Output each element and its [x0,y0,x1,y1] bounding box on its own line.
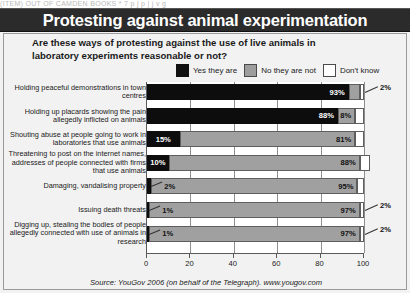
callout-leader-dont-know [365,204,378,211]
bar-row: 10%88% [147,155,370,171]
bar-row: 97% [147,226,364,242]
legend-swatch-yes [176,64,189,77]
bar-value-yes: 93% [330,88,348,97]
chart-subtitle: Are these ways of protesting against the… [32,37,362,62]
callout-leader-dont-know [365,228,378,235]
bar-segment-yes: 93% [147,84,349,100]
chart-panel: Are these ways of protesting against the… [3,33,407,290]
chart-title-bar: Protesting against animal experimentatio… [0,8,410,32]
bar-row: 95% [147,178,364,194]
bar-value-no: 88% [340,158,358,167]
x-tick-40 [233,254,234,258]
x-axis: 020406080100 [146,254,364,276]
bar-segment-no: 81% [180,131,356,147]
legend-swatch-dont_know [323,64,336,77]
legend-item-no: No they are not [244,64,316,77]
bar-segment-dont_know [355,108,364,124]
x-tick-100 [363,254,364,258]
bar-segment-dont_know [357,178,364,194]
bar-value-yes: 15% [148,135,179,144]
bar-segment-no: 88% [169,155,360,171]
x-tick-0 [146,254,147,258]
source-note: Source: YouGov 2006 (on behalf of the Te… [4,278,408,287]
chart-plot-wrapper: Holding peaceful demonstrations in town … [4,82,408,287]
bar-value-yes: 88% [319,111,337,120]
bar-segment-no: 95% [151,178,357,194]
legend-label-yes: Yes they are [193,66,237,75]
plot-area: 93%2%88%8%15%81%10%88%95%2%97%1%2%97%1%2… [146,82,364,254]
category-label: Issuing death threats [6,206,146,214]
bar-value-dont-know: 2% [380,201,391,210]
category-label: Holding up placards showing the pain all… [6,108,146,124]
bar-segment-no: 8% [338,108,355,124]
x-tick-label-20: 20 [185,259,193,268]
bar-segment-yes: 88% [147,108,338,124]
chart-legend: Yes they areNo they are notDon't know [176,62,406,79]
bar-value-no: 97% [340,206,358,215]
bar-value-yes: 1% [162,206,173,215]
bar-value-no: 95% [338,182,356,191]
legend-label-no: No they are not [261,66,316,75]
chart-figure: (ITEM) OUT OF CAMDEN BOOKS * 7 p j p | j… [0,0,410,293]
legend-item-yes: Yes they are [176,64,237,77]
x-tick-label-100: 100 [357,259,370,268]
category-label: Holding peaceful demonstrations in town … [6,84,146,100]
x-tick-label-80: 80 [315,259,323,268]
chart-title: Protesting against animal experimentatio… [0,9,410,32]
x-tick-80 [320,254,321,258]
bar-value-no: 97% [340,229,358,238]
bar-row: 93% [147,84,364,100]
x-tick-label-40: 40 [229,259,237,268]
bar-segment-dont_know [360,155,371,171]
bar-segment-no: 97% [149,202,359,218]
callout-leader-dont-know [365,86,378,93]
bar-value-yes: 2% [164,182,175,191]
scan-artifact-strip: (ITEM) OUT OF CAMDEN BOOKS * 7 p j p | j… [0,0,410,8]
legend-label-dont_know: Don't know [340,66,379,75]
bar-value-no: 8% [340,111,354,120]
bar-segment-dont_know [360,202,364,218]
bar-row: 15%81% [147,131,364,147]
x-tick-label-0: 0 [144,259,148,268]
x-tick-label-60: 60 [272,259,280,268]
bar-value-yes: 10% [148,158,168,167]
bar-row: 97% [147,202,364,218]
bar-segment-dont_know [360,226,364,242]
category-label: Damaging, vandalising property [6,182,146,190]
legend-swatch-no [244,64,257,77]
bar-segment-dont_know [360,84,364,100]
category-label: Threatening to post on the internet name… [6,150,146,175]
x-tick-60 [276,254,277,258]
x-tick-20 [189,254,190,258]
category-label: Shouting abuse at people going to work i… [6,131,146,147]
legend-item-dont_know: Don't know [323,64,379,77]
bar-value-yes: 1% [162,229,173,238]
bar-segment-yes: 10% [147,155,169,171]
bar-segment-dont_know [355,131,364,147]
bar-segment-no [349,84,360,100]
bar-row: 88%8% [147,108,364,124]
category-label: Digging up, stealing the bodies of peopl… [6,221,146,246]
bar-value-no: 81% [336,135,354,144]
bar-value-dont-know: 2% [380,225,391,234]
bar-segment-no: 97% [149,226,359,242]
category-axis-labels: Holding peaceful demonstrations in town … [6,82,146,254]
bar-segment-yes: 15% [147,131,180,147]
bar-value-dont-know: 2% [380,83,391,92]
